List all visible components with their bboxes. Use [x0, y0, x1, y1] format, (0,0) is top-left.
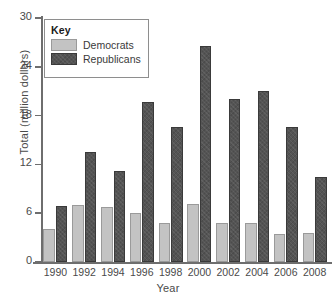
bar-republicans-2006 [286, 127, 298, 262]
y-tick-label: 24 [20, 59, 32, 71]
bar-republicans-2002 [229, 99, 241, 262]
bar-democrats-2008 [303, 233, 315, 262]
bar-democrats-2006 [274, 234, 286, 262]
bar-republicans-1998 [171, 127, 183, 262]
bar-democrats-1994 [101, 207, 113, 262]
legend-item-republicans: Republicans [51, 53, 142, 65]
legend-label-democrats: Democrats [83, 39, 134, 51]
bar-republicans-2008 [315, 177, 327, 262]
bar-chart: Total (million dollars) Year 0612182430 … [0, 0, 336, 300]
legend-title: Key [51, 24, 142, 36]
x-tick-label-2004: 2004 [243, 266, 272, 278]
y-tick-label: 18 [20, 108, 32, 120]
bar-republicans-1990 [56, 206, 68, 262]
bar-republicans-1994 [114, 171, 126, 262]
legend-label-republicans: Republicans [83, 53, 141, 65]
bar-republicans-2004 [258, 91, 270, 262]
x-tick-label-1996: 1996 [127, 266, 156, 278]
x-tick-label-1998: 1998 [156, 266, 185, 278]
bar-democrats-1990 [43, 229, 55, 262]
legend-swatch-democrats-icon [51, 39, 77, 51]
bar-democrats-2000 [187, 204, 199, 262]
bar-republicans-1996 [142, 102, 154, 262]
x-tick-label-2006: 2006 [271, 266, 300, 278]
x-axis-title: Year [0, 282, 336, 294]
bar-republicans-2000 [200, 46, 212, 262]
x-axis-line [33, 262, 332, 264]
legend-item-democrats: Democrats [51, 39, 142, 51]
bar-democrats-1998 [159, 223, 171, 262]
bar-democrats-2002 [216, 223, 228, 262]
legend-swatch-republicans-icon [51, 53, 77, 65]
x-tick-label-2000: 2000 [185, 266, 214, 278]
bar-democrats-2004 [245, 223, 257, 262]
x-tick-label-2008: 2008 [300, 266, 329, 278]
bar-republicans-1992 [85, 152, 97, 262]
bar-democrats-1996 [130, 213, 142, 262]
bar-democrats-1992 [72, 205, 84, 262]
x-tick-label-2002: 2002 [214, 266, 243, 278]
x-tick-label-1990: 1990 [41, 266, 70, 278]
x-tick-label-1994: 1994 [99, 266, 128, 278]
y-tick-label: 0 [26, 254, 32, 266]
y-tick-label: 6 [26, 205, 32, 217]
y-tick-label: 30 [20, 10, 32, 22]
y-tick-label: 12 [20, 156, 32, 168]
legend: Key Democrats Republicans [44, 19, 149, 78]
x-tick-label-1992: 1992 [70, 266, 99, 278]
